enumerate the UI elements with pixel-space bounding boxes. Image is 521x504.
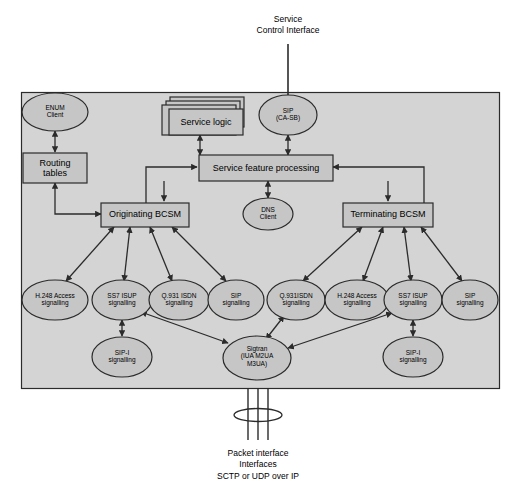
- node-sipi-signalling-right: [383, 337, 443, 377]
- node-sip-casb: [259, 95, 317, 135]
- service-control-interface-caption: Service Control Interface: [218, 14, 358, 37]
- node-terminating-bcsm: [343, 203, 433, 227]
- node-h248-access-signalling-left: [22, 280, 88, 320]
- node-sip-signalling-right: [442, 280, 498, 320]
- node-originating-bcsm: [101, 203, 189, 227]
- node-ss7-isup-signalling-right: [384, 280, 442, 320]
- diagram-vector-layer: [0, 0, 521, 504]
- node-q931-isdn-signalling-right: [267, 280, 325, 320]
- node-routing-tables: [23, 153, 87, 183]
- diagram-canvas: Service Control Interface Packet interfa…: [0, 0, 521, 504]
- packet-interface-symbol: [234, 388, 282, 440]
- node-dns-client: [243, 198, 293, 230]
- packet-interface-caption: Packet interface Interfaces SCTP or UDP …: [178, 448, 338, 482]
- node-service-feature-processing: [199, 155, 333, 181]
- node-sip-signalling-left: [208, 280, 264, 320]
- node-enum-client: [22, 93, 88, 131]
- node-sipi-signalling-left: [92, 337, 152, 377]
- node-sigtran: [223, 336, 291, 380]
- node-service-logic: [169, 109, 243, 135]
- node-ss7-isup-signalling-left: [92, 280, 152, 320]
- node-h248-access-signalling-right: [325, 280, 389, 320]
- node-q931-isdn-signalling-left: [149, 280, 209, 320]
